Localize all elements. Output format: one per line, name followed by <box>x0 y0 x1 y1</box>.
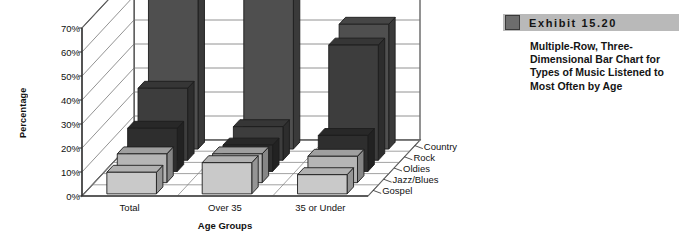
x-category-35-or-under: 35 or Under <box>295 202 345 213</box>
series-label-gospel: Gospel <box>382 185 412 196</box>
bar-chart: Percentage 0%10%20%30%40%50%60%70% Count… <box>0 0 490 248</box>
series-label-rock: Rock <box>413 152 435 163</box>
bar-gospel-35-or-under <box>298 168 354 194</box>
bar-gospel-total <box>107 165 163 194</box>
x-category-total: Total <box>120 202 140 213</box>
exhibit-header: Exhibit 15.20 <box>503 14 679 31</box>
series-label-jazz-blues: Jazz/Blues <box>393 174 439 185</box>
series-label-oldies: Oldies <box>403 163 430 174</box>
bar-gospel-over-35 <box>202 156 258 194</box>
x-axis-title: Age Groups <box>198 220 252 231</box>
exhibit-caption: Multiple-Row, Three-Dimensional Bar Char… <box>530 40 680 93</box>
plot-area <box>0 0 490 248</box>
exhibit-figure: Percentage 0%10%20%30%40%50%60%70% Count… <box>0 0 692 248</box>
exhibit-number: Exhibit 15.20 <box>529 17 617 29</box>
x-category-over-35: Over 35 <box>208 202 242 213</box>
exhibit-callout: Exhibit 15.20 Multiple-Row, Three-Dimens… <box>503 14 679 93</box>
gray-square-icon <box>505 15 520 30</box>
series-label-country: Country <box>424 141 457 152</box>
